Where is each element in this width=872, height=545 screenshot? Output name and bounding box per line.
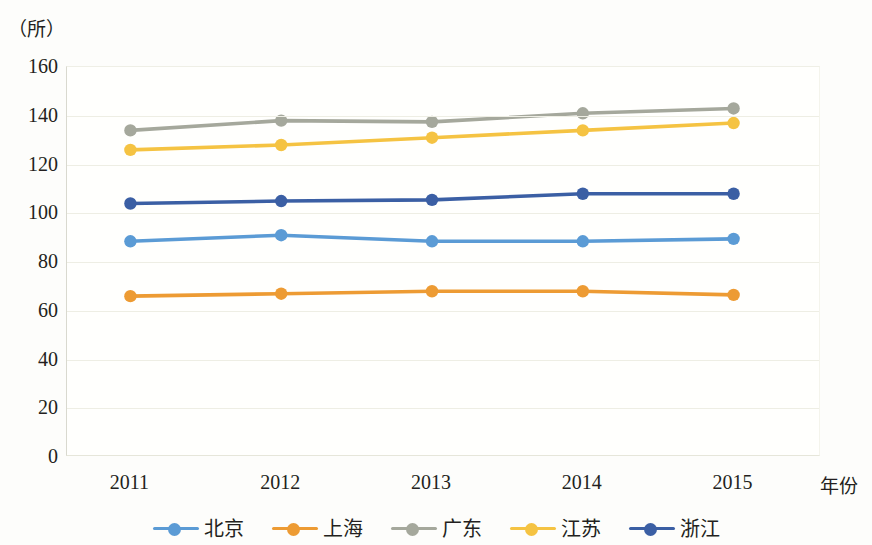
data-point bbox=[426, 131, 438, 143]
legend-label: 江苏 bbox=[561, 519, 601, 539]
y-axis-tick-label: 120 bbox=[0, 154, 58, 174]
data-point bbox=[426, 116, 438, 128]
gridline bbox=[67, 165, 819, 166]
y-axis-tick-label: 20 bbox=[0, 397, 58, 417]
data-point bbox=[426, 285, 438, 297]
x-axis-title: 年份 bbox=[820, 471, 858, 498]
legend-item-浙江[interactable]: 浙江 bbox=[629, 519, 720, 539]
series-北京 bbox=[124, 229, 740, 247]
x-axis-tick-label: 2013 bbox=[386, 471, 476, 493]
gridline bbox=[67, 360, 819, 361]
gridline bbox=[67, 262, 819, 263]
gridline bbox=[67, 311, 819, 312]
data-point bbox=[577, 285, 589, 297]
data-point bbox=[727, 233, 739, 245]
series-浙江 bbox=[124, 188, 740, 210]
y-axis-tick-label: 160 bbox=[0, 56, 58, 76]
legend-marker-icon bbox=[272, 521, 318, 537]
gridline bbox=[67, 408, 819, 409]
data-point bbox=[275, 287, 287, 299]
legend-item-广东[interactable]: 广东 bbox=[391, 519, 482, 539]
data-point bbox=[727, 188, 739, 200]
data-point bbox=[577, 235, 589, 247]
data-point bbox=[727, 102, 739, 114]
x-axis-tick-label: 2015 bbox=[688, 471, 778, 493]
x-axis-tick-label: 2011 bbox=[84, 471, 174, 493]
y-axis-tick-label: 60 bbox=[0, 300, 58, 320]
chart-legend: 北京上海广东江苏浙江 bbox=[0, 512, 872, 545]
legend-marker-icon bbox=[629, 521, 675, 537]
data-point bbox=[275, 229, 287, 241]
legend-marker-icon bbox=[510, 521, 556, 537]
data-point bbox=[124, 290, 136, 302]
gridline bbox=[67, 116, 819, 117]
legend-marker-icon bbox=[391, 521, 437, 537]
data-point bbox=[727, 117, 739, 129]
data-point bbox=[577, 107, 589, 119]
line-chart: （所） 160140120100806040200 20112012201320… bbox=[0, 0, 872, 545]
data-point bbox=[124, 197, 136, 209]
data-point bbox=[124, 144, 136, 156]
gridline bbox=[67, 213, 819, 214]
y-axis-tick-label: 0 bbox=[0, 446, 58, 466]
legend-label: 北京 bbox=[204, 519, 244, 539]
data-point bbox=[275, 195, 287, 207]
legend-item-江苏[interactable]: 江苏 bbox=[510, 519, 601, 539]
data-point bbox=[426, 194, 438, 206]
data-point bbox=[577, 188, 589, 200]
plot-area bbox=[66, 66, 820, 456]
legend-label: 广东 bbox=[442, 519, 482, 539]
y-axis-tick-labels: 160140120100806040200 bbox=[0, 0, 58, 545]
legend-item-上海[interactable]: 上海 bbox=[272, 519, 363, 539]
legend-marker-icon bbox=[153, 521, 199, 537]
y-axis-tick-label: 140 bbox=[0, 105, 58, 125]
data-point bbox=[124, 235, 136, 247]
series-广东 bbox=[124, 102, 740, 136]
data-point bbox=[124, 124, 136, 136]
y-axis-tick-label: 40 bbox=[0, 349, 58, 369]
data-point bbox=[577, 124, 589, 136]
y-axis-tick-label: 80 bbox=[0, 251, 58, 271]
legend-label: 上海 bbox=[323, 519, 363, 539]
legend-item-北京[interactable]: 北京 bbox=[153, 519, 244, 539]
y-axis-tick-label: 100 bbox=[0, 202, 58, 222]
x-axis-tick-label: 2012 bbox=[235, 471, 325, 493]
series-上海 bbox=[124, 285, 740, 302]
data-point bbox=[426, 235, 438, 247]
legend-label: 浙江 bbox=[680, 519, 720, 539]
data-point bbox=[275, 139, 287, 151]
data-point bbox=[727, 289, 739, 301]
x-axis-tick-label: 2014 bbox=[537, 471, 627, 493]
